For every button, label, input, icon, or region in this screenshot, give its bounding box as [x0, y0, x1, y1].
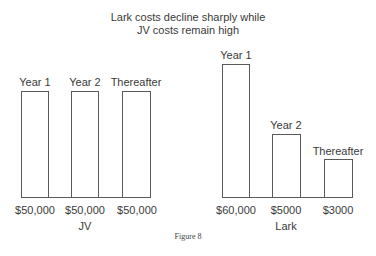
jv-axis-label: JV — [50, 220, 120, 232]
lark-bar-year1 — [222, 64, 250, 198]
lark-bar-year2 — [272, 134, 301, 198]
figure-caption: Figure 8 — [0, 232, 376, 241]
lark-axis-label: Lark — [251, 220, 321, 232]
jv-value-thereafter: $50,000 — [102, 204, 172, 216]
lark-bar-label-thereafter: Thereafter — [303, 145, 373, 157]
lark-baseline — [222, 197, 353, 198]
chart-title: Lark costs decline sharply while JV cost… — [0, 11, 376, 37]
jv-baseline — [21, 197, 151, 198]
lark-bar-label-year1: Year 1 — [201, 49, 271, 61]
lark-value-thereafter: $3000 — [303, 204, 373, 216]
lark-bar-thereafter — [324, 159, 353, 198]
lark-bar-label-year2: Year 2 — [251, 119, 321, 131]
jv-bar-year1 — [21, 91, 49, 198]
chart-title-line-1: Lark costs decline sharply while — [0, 11, 376, 24]
chart-title-line-2: JV costs remain high — [0, 24, 376, 37]
jv-bar-year2 — [71, 91, 99, 198]
jv-bar-thereafter — [122, 91, 151, 198]
jv-bar-label-thereafter: Thereafter — [101, 76, 171, 88]
